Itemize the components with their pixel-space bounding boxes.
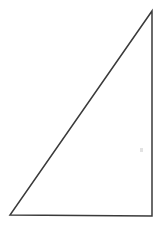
triangle-drawing-svg (0, 0, 163, 227)
figure-canvas (0, 0, 163, 227)
scan-speck-artifact (140, 148, 143, 152)
